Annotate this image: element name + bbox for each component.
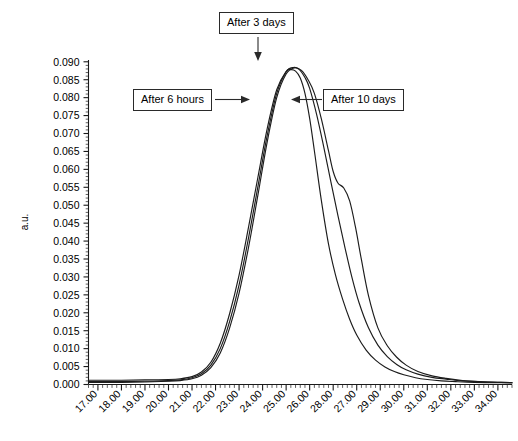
curve-after-6-hours	[89, 69, 513, 382]
x-tick-label: 26.00	[284, 387, 311, 414]
y-tick-label: 0.040	[53, 235, 79, 247]
x-tick-label: 25.00	[260, 387, 287, 414]
curve-after-3-days	[89, 67, 513, 382]
annotation-leader-after-6-hours	[215, 96, 250, 104]
y-axis-title: a.u.	[19, 214, 30, 231]
x-tick-label: 33.00	[449, 387, 476, 414]
y-tick-label: 0.090	[53, 56, 79, 68]
x-tick-label: 22.00	[190, 387, 217, 414]
x-tick-label: 19.00	[119, 387, 146, 414]
y-tick-label: 0.085	[53, 74, 79, 86]
y-tick-label: 0.080	[53, 91, 79, 103]
annotation-after-6-hours: After 6 hours	[133, 89, 212, 111]
chart-container: 0.0000.0050.0100.0150.0200.0250.0300.035…	[0, 0, 518, 441]
y-axis-ticks	[84, 62, 89, 385]
y-tick-label: 0.030	[53, 271, 79, 283]
y-tick-label: 0.025	[53, 289, 79, 301]
x-axis-tick-labels: 17.0018.0019.0020.0021.0022.0023.0024.00…	[72, 387, 499, 414]
x-tick-label: 34.00	[472, 387, 499, 414]
y-tick-label: 0.045	[53, 217, 79, 229]
y-tick-label: 0.050	[53, 199, 79, 211]
y-tick-label: 0.055	[53, 181, 79, 193]
annotation-leader-after-3-days	[254, 37, 262, 61]
x-tick-label: 31.00	[402, 387, 429, 414]
x-tick-label: 29.00	[355, 387, 382, 414]
y-tick-label: 0.060	[53, 163, 79, 175]
x-tick-label: 18.00	[96, 387, 123, 414]
x-tick-label: 17.00	[72, 387, 99, 414]
y-tick-label: 0.010	[53, 342, 79, 354]
x-tick-label: 21.00	[166, 387, 193, 414]
x-tick-label: 28.00	[308, 387, 335, 414]
x-tick-label: 27.00	[331, 387, 358, 414]
y-tick-label: 0.020	[53, 307, 79, 319]
y-tick-label: 0.035	[53, 253, 79, 265]
x-tick-label: 30.00	[378, 387, 405, 414]
y-tick-label: 0.015	[53, 325, 79, 337]
curve-after-10-days	[89, 68, 513, 383]
x-tick-label: 20.00	[143, 387, 170, 414]
y-tick-label: 0.070	[53, 127, 79, 139]
y-axis-tick-labels: 0.0000.0050.0100.0150.0200.0250.0300.035…	[53, 56, 79, 391]
annotation-after-10-days: After 10 days	[323, 89, 404, 111]
x-tick-label: 24.00	[237, 387, 264, 414]
y-tick-label: 0.065	[53, 145, 79, 157]
y-tick-label: 0.000	[53, 378, 79, 390]
chart-plot-area: 0.0000.0050.0100.0150.0200.0250.0300.035…	[0, 0, 518, 441]
data-curves	[89, 67, 513, 382]
y-tick-label: 0.005	[53, 360, 79, 372]
x-tick-label: 32.00	[425, 387, 452, 414]
annotation-after-3-days: After 3 days	[219, 12, 294, 34]
y-tick-label: 0.075	[53, 109, 79, 121]
x-tick-label: 23.00	[213, 387, 240, 414]
